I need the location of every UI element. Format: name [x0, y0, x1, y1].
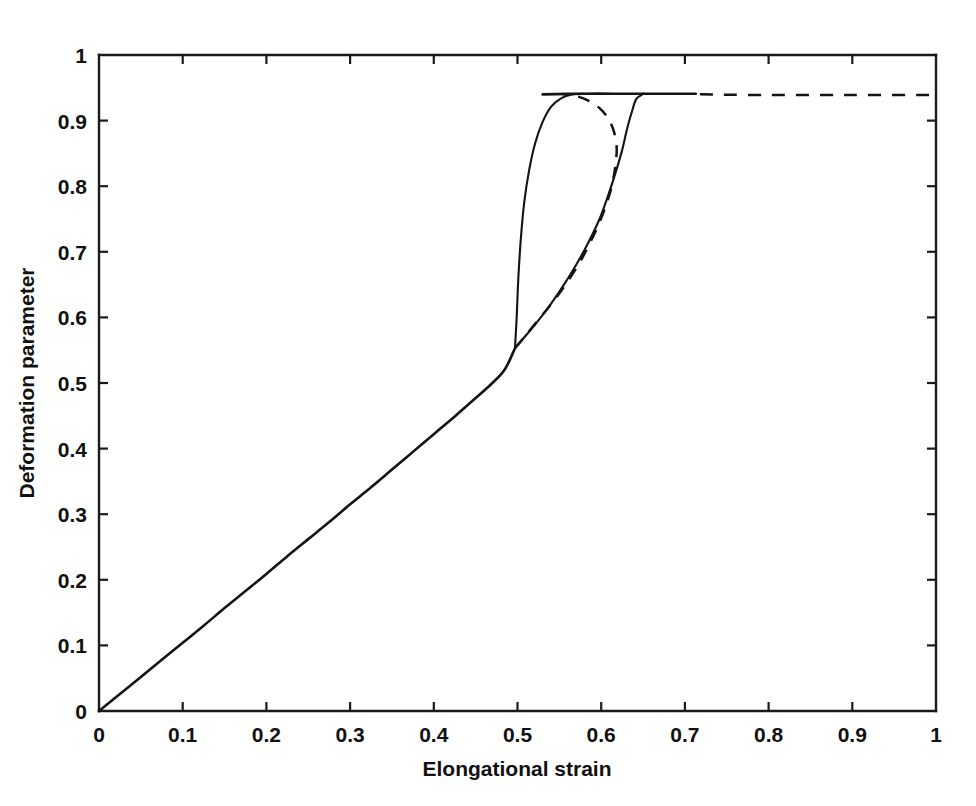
- x-tick-label: 0.5: [503, 723, 533, 746]
- axis-ticks: [99, 55, 936, 711]
- x-tick-label: 1: [930, 723, 942, 746]
- x-tick-label: 0.8: [754, 723, 784, 746]
- curve-second-solid-rising-branch: [515, 94, 643, 349]
- curve-lower-stable-branch: [99, 348, 515, 711]
- axis-tick-labels: 00.10.20.30.40.50.60.70.80.9100.10.20.30…: [58, 44, 942, 746]
- y-tick-label: 0.4: [58, 438, 88, 461]
- x-tick-label: 0: [93, 723, 105, 746]
- x-tick-label: 0.7: [670, 723, 699, 746]
- chart-figure: 00.10.20.30.40.50.60.70.80.9100.10.20.30…: [0, 0, 976, 806]
- y-axis-title: Deformation parameter: [15, 267, 38, 498]
- y-tick-label: 0.7: [58, 241, 87, 264]
- y-tick-label: 0.1: [58, 634, 88, 657]
- y-tick-label: 0.5: [58, 372, 88, 395]
- curve-vertical-jump-to-plateau: [515, 94, 584, 349]
- data-curves: [99, 94, 936, 711]
- y-tick-label: 0.3: [58, 503, 87, 526]
- y-tick-label: 0.6: [58, 306, 87, 329]
- y-tick-label: 0.8: [58, 175, 88, 198]
- x-tick-label: 0.2: [252, 723, 281, 746]
- x-tick-label: 0.4: [419, 723, 449, 746]
- x-axis-title: Elongational strain: [422, 757, 611, 780]
- curve-unstable-dashed-branch: [515, 94, 617, 348]
- y-tick-label: 1: [75, 44, 87, 67]
- x-tick-label: 0.1: [168, 723, 198, 746]
- y-tick-label: 0.9: [58, 110, 87, 133]
- x-tick-label: 0.6: [587, 723, 616, 746]
- axis-frame: [99, 55, 936, 711]
- y-tick-label: 0: [75, 700, 87, 723]
- curve-upper-plateau-dashed: [700, 94, 936, 95]
- x-tick-label: 0.9: [838, 723, 867, 746]
- plot-canvas: 00.10.20.30.40.50.60.70.80.9100.10.20.30…: [0, 0, 976, 806]
- y-tick-label: 0.2: [58, 569, 87, 592]
- x-tick-label: 0.3: [335, 723, 364, 746]
